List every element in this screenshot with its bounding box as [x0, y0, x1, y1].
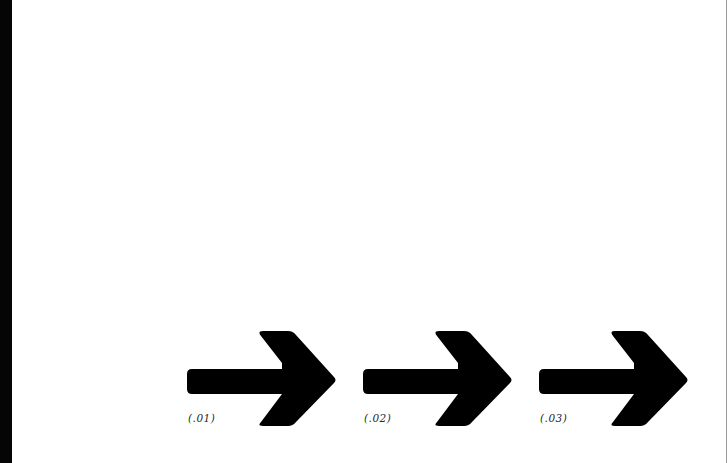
arrow-label: (.01): [188, 412, 215, 424]
right-edge-border: [726, 0, 727, 463]
arrow-label: (.03): [540, 412, 567, 424]
arrow-item-3: (.03): [539, 325, 699, 435]
arrow-item-2: (.02): [363, 325, 523, 435]
arrow-label: (.02): [364, 412, 391, 424]
canvas: (.01) (.02) (.03): [12, 0, 726, 463]
arrow-item-1: (.01): [187, 325, 347, 435]
left-black-bar: [0, 0, 12, 463]
